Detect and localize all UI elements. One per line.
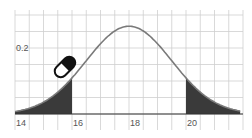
y-tick-label: 0.2 bbox=[16, 43, 29, 53]
x-tick-label: 14 bbox=[16, 118, 26, 128]
x-tick-label: 16 bbox=[73, 118, 83, 128]
x-tick-label: 18 bbox=[130, 118, 140, 128]
x-tick-label: 20 bbox=[187, 118, 197, 128]
normal-distribution-chart: 14161820 0.2 bbox=[0, 0, 252, 138]
